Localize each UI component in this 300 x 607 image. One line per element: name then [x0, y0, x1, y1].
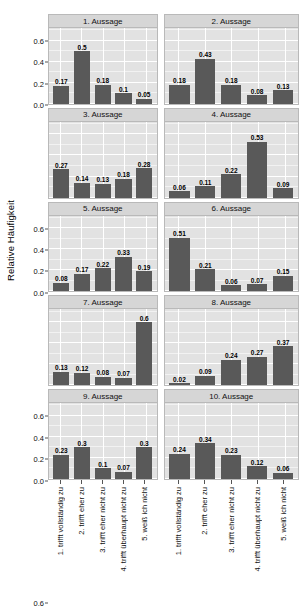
- x-tick-mark: [144, 480, 145, 484]
- bar-slot: 0.1: [113, 28, 134, 104]
- facet-bar-chart: Relative Häufigkeit 0.00.20.40.61. Aussa…: [0, 0, 299, 607]
- x-tick-mark: [81, 480, 82, 484]
- x-axis-column-1: 1. trifft vollständig zu2. trifft eher z…: [22, 480, 158, 607]
- bar-series: 0.060.110.220.530.09: [165, 122, 299, 198]
- bar-value-label: 0.22: [96, 261, 109, 268]
- bar: 0.23: [53, 455, 69, 479]
- bar-value-label: 0.11: [199, 179, 211, 186]
- y-axis: 0.00.20.40.6: [22, 295, 48, 386]
- bar-slot: 0.34: [192, 403, 218, 479]
- bar-slot: 0.6: [134, 309, 155, 385]
- bar: 0.07: [115, 378, 131, 385]
- bar: 0.06: [169, 191, 189, 197]
- bar-slot: 0.09: [192, 309, 218, 385]
- bar-value-label: 0.6: [140, 315, 149, 322]
- bar-slot: 0.27: [244, 309, 270, 385]
- bar-value-label: 0.37: [277, 339, 290, 346]
- bar-value-label: 0.08: [96, 369, 109, 376]
- plot-area: 0.270.140.130.180.28: [48, 122, 158, 199]
- bar: 0.27: [53, 169, 69, 197]
- bar-value-label: 0.1: [119, 86, 128, 93]
- bar-value-label: 0.21: [199, 262, 212, 269]
- bar-value-label: 0.18: [173, 77, 186, 84]
- panel-title-strip: 7. Aussage: [48, 295, 158, 309]
- bar-value-label: 0.22: [225, 167, 238, 174]
- panel-body: 4. Aussage0.060.110.220.530.09: [164, 108, 300, 199]
- bar: 0.13: [95, 184, 111, 198]
- bar-value-label: 0.12: [76, 365, 89, 372]
- bar-slot: 0.09: [270, 122, 296, 198]
- panel-body: 10. Aussage0.240.340.230.120.06: [164, 389, 300, 480]
- bar: 0.07: [247, 284, 267, 291]
- bar-series: 0.270.140.130.180.28: [49, 122, 157, 198]
- x-tick-label: 5. weiß ich nicht: [140, 487, 149, 541]
- panel-grid: 0.00.20.40.61. Aussage0.170.50.180.10.05…: [22, 14, 299, 480]
- bar: 0.18: [95, 85, 111, 104]
- x-axis-label-row: 1. trifft vollständig zu2. trifft eher z…: [22, 480, 299, 607]
- bar: 0.53: [247, 142, 267, 198]
- plot-area: 0.060.110.220.530.09: [164, 122, 300, 199]
- x-tick-label: 2. trifft eher zu: [200, 487, 209, 535]
- bar: 0.08: [53, 283, 69, 291]
- x-tick-label: 1. trifft vollständig zu: [174, 487, 183, 555]
- x-tick-label: 4. trifft überhaupt nicht zu: [253, 487, 262, 572]
- x-tick-group: 1. trifft vollständig zu2. trifft eher z…: [48, 480, 158, 607]
- panel-row: 0.00.20.40.61. Aussage0.170.50.180.10.05…: [22, 14, 299, 105]
- bar-slot: 0.51: [167, 216, 193, 292]
- facet-panel-2: 2. Aussage0.180.430.180.080.13: [164, 14, 300, 105]
- x-tick-mark: [257, 480, 258, 484]
- x-tick: 1. trifft vollständig zu: [50, 480, 71, 607]
- bar-slot: 0.14: [72, 122, 93, 198]
- bar: 0.07: [115, 472, 131, 479]
- panel-title-strip: 1. Aussage: [48, 14, 158, 28]
- bar: 0.09: [273, 188, 293, 197]
- bar-series: 0.130.120.080.070.6: [49, 309, 157, 385]
- bar: 0.33: [115, 257, 131, 292]
- bar: 0.34: [195, 443, 215, 479]
- x-tick-label: 4. trifft überhaupt nicht zu: [119, 487, 128, 572]
- bar: 0.11: [195, 186, 215, 198]
- bar-value-label: 0.06: [225, 278, 238, 285]
- x-tick-mark: [178, 480, 179, 484]
- x-tick: 5. weiß ich nicht: [134, 480, 155, 607]
- plot-area: 0.080.170.220.330.19: [48, 216, 158, 293]
- x-tick-label: 3. trifft eher nicht zu: [227, 487, 236, 553]
- bar: 0.18: [169, 85, 189, 104]
- bar-slot: 0.24: [167, 403, 193, 479]
- bar: 0.06: [221, 285, 241, 291]
- bar-slot: 0.37: [270, 309, 296, 385]
- bar: 0.3: [136, 447, 152, 479]
- plot-area: 0.170.50.180.10.05: [48, 28, 158, 105]
- bar-slot: 0.23: [218, 403, 244, 479]
- panel-title-strip: 5. Aussage: [48, 202, 158, 216]
- bar: 0.06: [273, 473, 293, 479]
- bar: 0.6: [136, 322, 152, 385]
- panel-title-strip: 8. Aussage: [164, 295, 300, 309]
- bar: 0.15: [273, 276, 293, 292]
- facet-panel-9: 0.00.20.40.69. Aussage0.230.30.10.070.3: [22, 389, 158, 480]
- bar-slot: 0.33: [113, 216, 134, 292]
- bar-slot: 0.11: [192, 122, 218, 198]
- bar-series: 0.180.430.180.080.13: [165, 28, 299, 104]
- bar-slot: 0.06: [167, 122, 193, 198]
- x-tick: 1. trifft vollständig zu: [166, 480, 192, 607]
- bar-value-label: 0.43: [199, 51, 212, 58]
- panel-row: 0.00.20.40.67. Aussage0.130.120.080.070.…: [22, 295, 299, 386]
- panel-body: 2. Aussage0.180.430.180.080.13: [164, 14, 300, 105]
- panel-body: 9. Aussage0.230.30.10.070.3: [48, 389, 158, 480]
- bar: 0.13: [273, 90, 293, 104]
- bar-value-label: 0.18: [225, 77, 238, 84]
- panel-row: 0.00.20.40.69. Aussage0.230.30.10.070.31…: [22, 389, 299, 480]
- bar-value-label: 0.51: [173, 230, 186, 237]
- bar-slot: 0.43: [192, 28, 218, 104]
- bar: 0.14: [74, 183, 90, 198]
- facet-panel-1: 0.00.20.40.61. Aussage0.170.50.180.10.05: [22, 14, 158, 105]
- y-axis-title: Relative Häufigkeit: [0, 0, 22, 480]
- bar-slot: 0.08: [244, 28, 270, 104]
- facet-panel-3: 0.00.20.40.63. Aussage0.270.140.130.180.…: [22, 108, 158, 199]
- x-tick: 2. trifft eher zu: [71, 480, 92, 607]
- bar-slot: 0.07: [113, 309, 134, 385]
- bar-slot: 0.18: [167, 28, 193, 104]
- bar: 0.1: [115, 93, 131, 104]
- panel-body: 6. Aussage0.510.210.060.070.15: [164, 202, 300, 293]
